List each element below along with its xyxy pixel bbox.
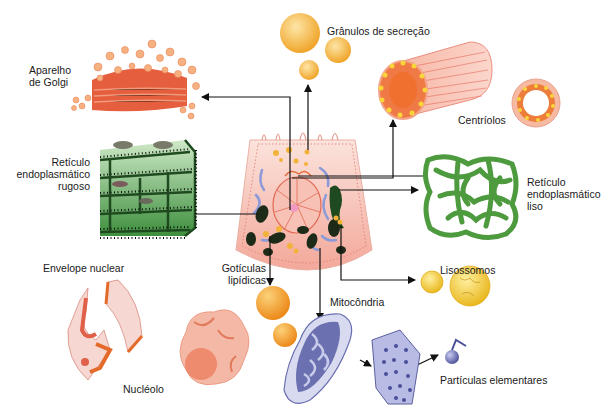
label-lysosomes: Lisossomos	[440, 264, 495, 276]
nuclear-envelope-illustration	[68, 280, 142, 380]
label-mitochondria: Mitocôndria	[330, 296, 384, 308]
cell-organelles-diagram: Aparelho de Golgi Grânulos de secreção C…	[0, 0, 615, 417]
label-elementary-particles: Partículas elementares	[440, 374, 547, 386]
label-nuclear-envelope: Envelope nuclear	[43, 262, 124, 274]
label-lipid-droplets: Gotículas lipídicas	[204, 262, 266, 286]
label-centrioles: Centríolos	[458, 114, 506, 126]
nucleolus-illustration	[180, 310, 249, 385]
rough-er-illustration	[100, 140, 196, 238]
smooth-er-illustration	[425, 157, 516, 238]
lipid-droplets-illustration	[256, 286, 297, 347]
label-secretion-granules: Grânulos de secreção	[327, 25, 430, 37]
secretion-granules-illustration	[280, 13, 351, 80]
label-smooth-er: Retículo endoplasmático liso	[527, 176, 601, 212]
label-rough-er: Retículo endoplasmático rugoso	[8, 156, 90, 192]
elementary-particles-illustration	[372, 330, 466, 404]
golgi-apparatus-illustration	[72, 40, 200, 119]
label-nucleolus: Nucléolo	[123, 383, 164, 395]
label-golgi-apparatus: Aparelho de Golgi	[29, 64, 71, 88]
diagram-graphics	[0, 0, 615, 417]
cell-illustration	[236, 133, 372, 270]
